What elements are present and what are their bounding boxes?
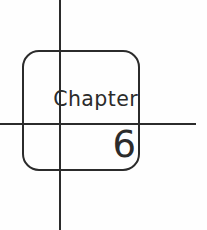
chapter-number: 6 <box>0 126 136 163</box>
chapter-label: Chapter <box>0 89 138 110</box>
vertical-rule <box>59 0 61 230</box>
chapter-divider-page: Chapter 6 <box>0 0 207 230</box>
